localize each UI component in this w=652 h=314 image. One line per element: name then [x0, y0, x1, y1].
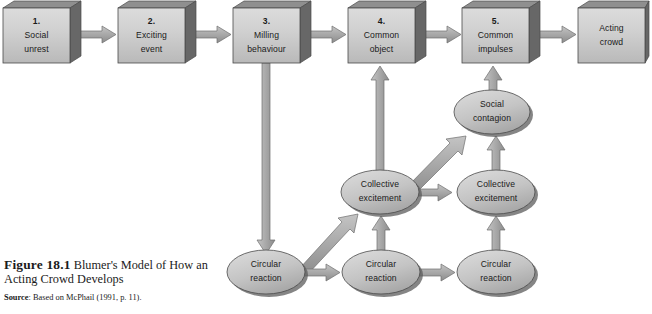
- stage-number: 3.: [263, 16, 270, 26]
- stage-line1: Exciting: [136, 30, 167, 40]
- stage-number: 1.: [33, 16, 40, 26]
- stage-number: 4.: [378, 16, 385, 26]
- stage-line1: Common: [364, 30, 400, 40]
- process-line2: reaction: [365, 273, 396, 283]
- stage-line1: Social: [24, 30, 48, 40]
- stage-line1: Common: [478, 30, 514, 40]
- stage-number: 2.: [148, 16, 155, 26]
- process-line1: Collective: [477, 179, 515, 189]
- stage-node-milling-behaviour[interactable]: 3. Milling behaviour: [233, 1, 311, 63]
- stage-node-acting-crowd[interactable]: Acting crowd: [578, 1, 649, 63]
- arrow-3-to-4: [306, 26, 346, 43]
- figure-caption-block: Figure 18.1 Blumer's Model of How an Act…: [4, 258, 230, 302]
- figure-number: Figure 18.1: [4, 257, 71, 272]
- source-label: Source: [4, 293, 29, 302]
- arrow-circular2-to-collective1: [372, 216, 390, 255]
- stage-node-common-object[interactable]: 4. Common object: [348, 1, 426, 63]
- stage-number: 5.: [492, 16, 499, 26]
- stage-node-common-impulses[interactable]: 5. Common impulses: [462, 1, 540, 63]
- stage-line2: object: [370, 44, 394, 54]
- process-node-collective-excitement-2[interactable]: Collective excitement: [457, 170, 538, 217]
- process-line1: Circular: [481, 259, 511, 269]
- figure-container: 1. Social unrest 2. Exciting event 3. Mi…: [0, 0, 652, 314]
- arrow-4-to-5: [421, 26, 461, 43]
- arrow-2-to-3: [191, 26, 231, 43]
- figure-source: Source: Based on McPhail (1991, p. 11).: [4, 293, 230, 302]
- arrow-circular3-to-collective2: [487, 216, 505, 255]
- stage-line1: Acting: [599, 23, 624, 33]
- arrow-5-to-outcome: [535, 26, 576, 43]
- process-line1: Social: [480, 99, 504, 109]
- process-node-circular-reaction-2[interactable]: Circular reaction: [342, 250, 423, 297]
- process-line1: Collective: [361, 179, 399, 189]
- stage-line2: event: [141, 44, 163, 54]
- process-line2: contagion: [473, 113, 511, 123]
- arrow-circular2-to-circular3: [418, 264, 455, 281]
- arrow-collective1-to-common-object: [371, 66, 389, 172]
- connections-layer: [76, 26, 576, 281]
- process-node-collective-excitement-1[interactable]: Collective excitement: [341, 170, 422, 217]
- stage-line2: behaviour: [247, 44, 286, 54]
- process-line1: Circular: [366, 259, 396, 269]
- stage-node-social-unrest[interactable]: 1. Social unrest: [3, 1, 81, 63]
- arrow-collective2-to-social-contagion: [487, 136, 505, 175]
- stage-line2: crowd: [600, 37, 624, 47]
- stage-line2: unrest: [24, 44, 49, 54]
- stage-node-exciting-event[interactable]: 2. Exciting event: [118, 1, 196, 63]
- figure-caption: Figure 18.1 Blumer's Model of How an Act…: [4, 258, 230, 286]
- process-line2: reaction: [480, 273, 511, 283]
- stage-line1: Milling: [254, 30, 279, 40]
- stage-line2: impulses: [478, 44, 513, 54]
- arrow-1-to-2: [76, 26, 116, 43]
- process-node-circular-reaction-1[interactable]: Circular reaction: [227, 250, 308, 297]
- process-node-circular-reaction-3[interactable]: Circular reaction: [457, 250, 538, 297]
- process-line2: excitement: [359, 193, 402, 203]
- process-line1: Circular: [251, 259, 281, 269]
- source-text: : Based on McPhail (1991, p. 11).: [29, 293, 142, 302]
- process-line2: excitement: [475, 193, 518, 203]
- arrow-milling-to-circular1: [257, 63, 275, 254]
- process-node-social-contagion[interactable]: Social contagion: [454, 90, 533, 137]
- process-line2: reaction: [250, 273, 281, 283]
